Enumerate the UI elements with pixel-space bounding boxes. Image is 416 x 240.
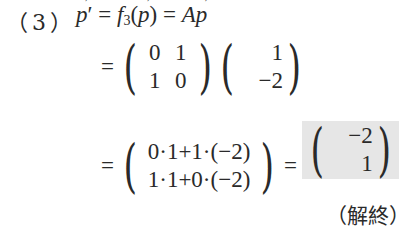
equation-line-1: p′ = f3(p) = Ap — [76, 2, 207, 29]
matrix-cell: 0 — [142, 39, 168, 67]
open-paren: ( — [130, 2, 138, 27]
result-vector: ( −2 1 ) — [306, 121, 395, 179]
expansion-column: ( 0·1+1·(−2) 1·1+0·(−2) ) — [119, 137, 279, 195]
end-of-solution-mark: （解終） — [326, 199, 410, 229]
expansion-row: 1·1+0·(−2) — [148, 166, 251, 194]
equals-sign: = — [101, 54, 114, 79]
result-cell: 1 — [329, 150, 373, 178]
left-paren: ( — [124, 137, 138, 195]
equation-line-2: = ( 0 1 1 0 ) ( 1 −2 ) — [101, 38, 306, 96]
right-paren: ) — [261, 137, 275, 195]
vector-p-arg: p — [138, 2, 150, 28]
problem-number: （3） — [6, 4, 76, 36]
vector-p-column: ( 1 −2 ) — [216, 38, 305, 96]
expansion-row: 0·1+1·(−2) — [148, 138, 251, 166]
matrix-A-symbol: A — [182, 2, 196, 27]
vector-cell: −2 — [239, 67, 283, 95]
vector-p-prime: p — [76, 2, 88, 28]
vector-p: p — [196, 2, 208, 28]
matrix-cell: 0 — [168, 67, 194, 95]
equals-sign: = — [98, 2, 111, 27]
right-paren: ) — [377, 121, 391, 179]
matrix-A: ( 0 1 1 0 ) — [119, 38, 216, 96]
matrix-cell: 1 — [142, 67, 168, 95]
right-paren: ) — [288, 38, 302, 96]
equals-sign: = — [163, 2, 176, 27]
left-paren: ( — [311, 121, 325, 179]
vector-cell: 1 — [239, 39, 283, 67]
result-highlight: ( −2 1 ) — [302, 121, 399, 179]
equals-sign: = — [284, 153, 297, 178]
equals-sign: = — [101, 153, 114, 178]
equation-line-3: = ( 0·1+1·(−2) 1·1+0·(−2) ) = ( −2 1 ) — [101, 121, 399, 195]
right-paren: ) — [198, 38, 212, 96]
matrix-cell: 1 — [168, 39, 194, 67]
left-paren: ( — [124, 38, 138, 96]
result-cell: −2 — [329, 122, 373, 150]
left-paren: ( — [221, 38, 235, 96]
